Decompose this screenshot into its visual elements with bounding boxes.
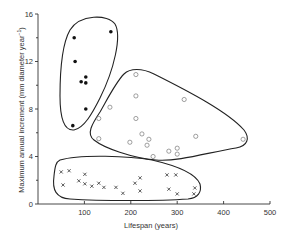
x-tick-label: 500: [264, 208, 277, 217]
cross-point: [133, 182, 136, 185]
open-circle-point: [108, 105, 112, 109]
filled-circle-point: [84, 81, 88, 85]
x-tick-label: 400: [217, 208, 230, 217]
cross-point: [167, 188, 170, 191]
x-tick-label: 100: [78, 208, 91, 217]
cross-point: [83, 182, 86, 185]
filled-circle-point: [73, 60, 77, 64]
y-tick-label: 4: [29, 152, 33, 161]
cross-point: [192, 192, 195, 195]
cross-point: [61, 183, 64, 186]
cross-point: [138, 176, 141, 179]
cross-point: [176, 192, 179, 195]
open-circle-point: [134, 72, 138, 76]
x-axis: 100200300400500 Lifespan (years): [38, 201, 276, 230]
envelope-cross-group: [54, 156, 201, 200]
x-tick-label: 200: [125, 208, 138, 217]
filled-circle-point: [79, 80, 83, 84]
scatter-chart: 0481216 Maximum annual increment (mm dia…: [0, 0, 293, 244]
cross-point: [90, 185, 93, 188]
cross-point: [121, 192, 124, 195]
cross-point: [60, 170, 63, 173]
y-axis-title: Maximum annual increment (mm diameter ye…: [16, 27, 26, 193]
cross-point: [83, 173, 86, 176]
cross-point: [174, 173, 177, 176]
y-tick-label: 0: [29, 200, 33, 209]
cross-point: [165, 173, 168, 176]
cross-point: [193, 186, 196, 189]
open-circle-point: [182, 97, 186, 101]
envelope-open-group: [90, 70, 247, 161]
filled-circle-point: [72, 36, 76, 40]
open-circle-point: [175, 146, 179, 150]
filled-circle-point: [109, 30, 113, 34]
cross-point: [77, 179, 80, 182]
open-circle-point: [134, 116, 138, 120]
open-circle-point: [167, 149, 171, 153]
y-tick-label: 16: [25, 10, 33, 19]
open-circle-point: [140, 132, 144, 136]
open-circle-point: [97, 137, 101, 141]
open-circle-point: [147, 137, 151, 141]
open-circle-point: [134, 94, 138, 98]
y-axis: 0481216 Maximum annual increment (mm dia…: [16, 10, 38, 209]
data-points: [60, 30, 246, 195]
open-circle-point: [151, 154, 155, 158]
open-circle-point: [145, 143, 149, 147]
filled-circle-point: [84, 75, 88, 79]
open-circle-point: [128, 140, 132, 144]
open-circle-point: [241, 137, 245, 141]
x-axis-title: Lifespan (years): [124, 221, 178, 230]
open-circle-point: [194, 134, 198, 138]
filled-circle-point: [84, 107, 88, 111]
open-circle-point: [175, 152, 179, 156]
cross-point: [138, 189, 141, 192]
filled-circle-point: [71, 124, 75, 128]
cross-point: [114, 186, 117, 189]
y-tick-label: 8: [29, 105, 33, 114]
x-tick-label: 300: [171, 208, 184, 217]
cross-point: [102, 186, 105, 189]
cross-point: [67, 169, 70, 172]
open-circle-point: [97, 116, 101, 120]
cross-point: [97, 182, 100, 185]
envelope-filled-group: [60, 17, 118, 130]
